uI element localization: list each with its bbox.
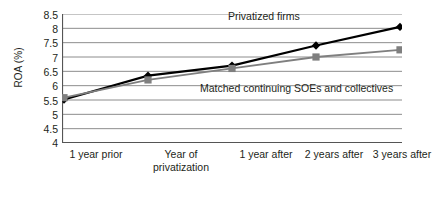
y-tick-label: 4	[28, 138, 58, 148]
plot-svg	[62, 14, 402, 143]
y-axis-tick-labels: 8.5 8 7.5 7 6.5 6 5.5 5 4.5 4	[24, 0, 58, 203]
y-tick-label: 5	[28, 110, 58, 120]
y-tick-label: 4.5	[28, 124, 58, 134]
y-tick-label: 7	[28, 53, 58, 63]
x-axis-tick-labels: 1 year prior Year of privatization 1 yea…	[62, 148, 402, 194]
y-tick-label: 8.5	[28, 10, 58, 20]
y-tick-label: 7.5	[28, 38, 58, 48]
y-tick-label: 6.5	[28, 67, 58, 77]
gridlines	[62, 14, 402, 143]
x-tick-label-line1: Year of	[165, 148, 198, 160]
x-tick-label-line1: 1 year after	[239, 148, 292, 160]
y-axis-title: ROA (%)	[13, 28, 24, 108]
plot-area	[62, 14, 402, 143]
x-tick-label-line2: privatization	[153, 161, 209, 173]
x-tick-label-line1: 1 year prior	[69, 148, 122, 160]
y-tick-label: 8	[28, 24, 58, 34]
y-tick-label: 6	[28, 81, 58, 91]
series-label-privatized-firms: Privatized firms	[228, 10, 300, 22]
x-tick-label-line1: 2 years after	[305, 148, 363, 160]
series-label-matched-soes: Matched continuing SOEs and collectives	[200, 82, 393, 94]
x-tick-label-line1: 3 years after	[373, 148, 431, 160]
y-tick-label: 5.5	[28, 96, 58, 106]
